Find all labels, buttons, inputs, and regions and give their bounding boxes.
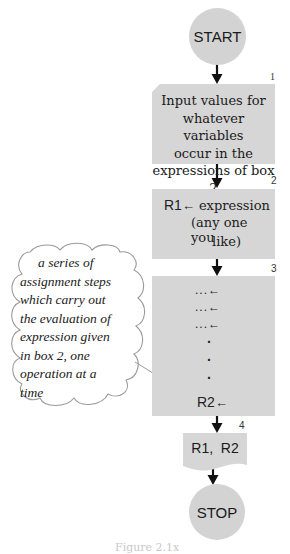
figure-caption: Figure 2.1x: [115, 541, 179, 554]
stop-terminal: STOP: [189, 484, 245, 540]
annotation-line: in box 2, one: [20, 347, 140, 366]
box2-line: expression: [199, 198, 270, 213]
assignment-row: ...←: [195, 283, 221, 297]
annotation-line: assignment steps: [20, 273, 140, 292]
annotation-line: which carry out: [20, 291, 140, 310]
assignment-row: ...←: [195, 300, 221, 314]
box1-line: whatever variables: [152, 110, 275, 145]
box3-assignment-series: ...← ...← ...← · · · R2←: [152, 276, 275, 416]
box4-number: 4: [239, 420, 245, 431]
stop-label: STOP: [197, 504, 238, 521]
box4-output-label: R1, R2: [183, 440, 247, 456]
assignment-row: ...←: [195, 317, 221, 331]
continuation-dot: ·: [207, 334, 212, 350]
box1-line: occur in the: [152, 145, 275, 163]
register-r1: R1: [164, 197, 182, 213]
annotation-line: a series of: [20, 254, 140, 273]
assign-arrow-icon: ←: [215, 395, 228, 410]
continuation-dot: ·: [207, 370, 212, 386]
box3-number: 3: [271, 263, 277, 274]
register-r2: R2: [197, 394, 215, 410]
box2-assignment: R1← expression (any one you like): [152, 189, 275, 259]
annotation-line: operation at a: [20, 365, 140, 384]
box2-number: 2: [271, 175, 277, 186]
annotation-line: the evaluation of: [20, 310, 140, 329]
start-label: START: [194, 28, 242, 45]
box2-line: like): [212, 234, 241, 249]
box1-number: 1: [270, 71, 275, 82]
annotation-line: expression given: [20, 328, 140, 347]
box1-input-step: Input values for whatever variables occu…: [152, 92, 275, 197]
annotation-line: time: [20, 384, 140, 403]
continuation-dot: ·: [207, 352, 212, 368]
start-terminal: START: [189, 8, 246, 65]
box1-line: Input values for: [152, 92, 275, 110]
annotation-text: a series of assignment steps which carry…: [20, 254, 140, 402]
assign-arrow-icon: ←: [182, 198, 195, 213]
